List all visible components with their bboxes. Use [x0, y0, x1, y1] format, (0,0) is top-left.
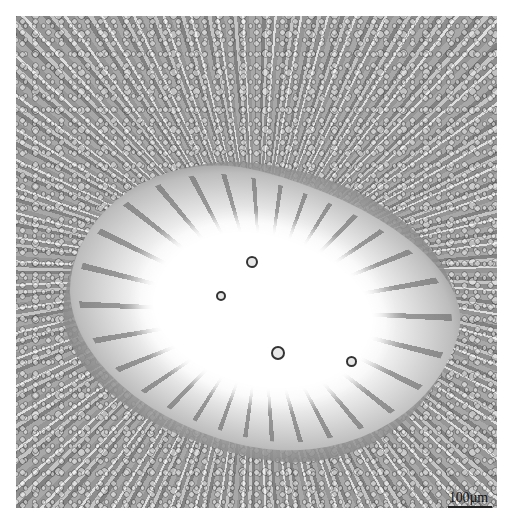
micrograph-image [16, 16, 497, 508]
cell-cluster [346, 356, 357, 367]
scale-bar-line [448, 506, 492, 508]
cell-cluster [216, 291, 226, 301]
scale-bar-label: 100µm [449, 491, 488, 505]
cell-cluster [246, 256, 258, 268]
cell-cluster [271, 346, 285, 360]
